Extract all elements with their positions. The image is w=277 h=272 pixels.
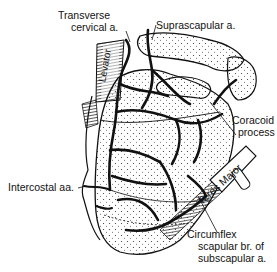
intercostal-label: Intercostal aa. [8, 181, 74, 193]
transverse-cervical-label: Transverse cervical a. [58, 9, 118, 33]
circumflex-scapular-label: Circumflex scapular br. of subscapular a… [187, 228, 266, 264]
suprascapular-label: Suprascapular a. [156, 19, 235, 31]
coracoid-process-label: Coracoid process [232, 114, 275, 138]
